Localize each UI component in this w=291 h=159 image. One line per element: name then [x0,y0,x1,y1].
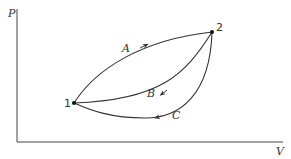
state-1-point [72,101,76,105]
pv-diagram: P V A B C 1 2 [0,0,291,159]
path-b-curve [74,32,212,103]
path-c-curve [74,32,212,118]
path-b-arrow-icon [162,90,167,94]
x-axis-label: V [276,145,285,158]
y-axis-label: P [7,7,16,20]
path-c-label: C [172,109,181,122]
state-2-point [210,30,214,34]
state-1-label: 1 [64,97,71,110]
path-a-label: A [121,42,130,55]
diagram-canvas: P V A B C 1 2 [0,0,291,159]
state-2-label: 2 [216,21,223,34]
path-b-label: B [146,87,155,100]
